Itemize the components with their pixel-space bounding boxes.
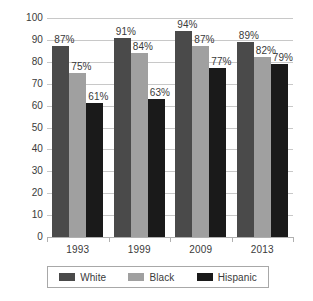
x-axis-tick-start bbox=[47, 237, 48, 242]
bar-black-1993[interactable] bbox=[69, 73, 86, 237]
bar-hispanic-1993[interactable] bbox=[86, 103, 103, 237]
legend-entry-black[interactable]: Black bbox=[128, 272, 174, 283]
y-tick-label-40: 40 bbox=[3, 144, 43, 154]
legend-label-hispanic: Hispanic bbox=[218, 272, 257, 283]
x-axis-tick-2013 bbox=[293, 237, 294, 242]
y-tick-label-80: 80 bbox=[3, 57, 43, 67]
y-tick-label-0: 0 bbox=[3, 232, 43, 242]
x-axis-tick-1993 bbox=[109, 237, 110, 242]
bar-value-label-black-1999: 84% bbox=[133, 42, 153, 52]
x-axis-tick-2009 bbox=[232, 237, 233, 242]
legend-label-black: Black bbox=[149, 272, 174, 283]
x-tick-label-2009: 2009 bbox=[170, 244, 232, 255]
bar-group-1993: 87%75%61% bbox=[52, 18, 103, 237]
y-tick-label-30: 30 bbox=[3, 166, 43, 176]
y-tick-label-60: 60 bbox=[3, 101, 43, 111]
bar-group-1999: 91%84%63% bbox=[114, 18, 165, 237]
bar-value-label-hispanic-1999: 63% bbox=[150, 88, 170, 98]
bar-white-1999[interactable] bbox=[114, 38, 131, 237]
legend-entry-hispanic[interactable]: Hispanic bbox=[197, 272, 257, 283]
bar-black-2013[interactable] bbox=[254, 57, 271, 237]
plot-area: 87%75%61%91%84%63%94%87%77%89%82%79% bbox=[47, 18, 293, 237]
y-tick-label-20: 20 bbox=[3, 188, 43, 198]
y-tick-label-70: 70 bbox=[3, 79, 43, 89]
bar-hispanic-2009[interactable] bbox=[209, 68, 226, 237]
bar-value-label-white-1999: 91% bbox=[116, 27, 136, 37]
bar-value-label-hispanic-2009: 77% bbox=[211, 57, 231, 67]
bar-white-2013[interactable] bbox=[237, 42, 254, 237]
x-axis-tick-1999 bbox=[170, 237, 171, 242]
bar-value-label-black-1993: 75% bbox=[71, 62, 91, 72]
legend-label-white: White bbox=[80, 272, 106, 283]
bar-hispanic-1999[interactable] bbox=[148, 99, 165, 237]
bar-value-label-white-1993: 87% bbox=[54, 35, 74, 45]
y-tick-label-10: 10 bbox=[3, 210, 43, 220]
bar-white-2009[interactable] bbox=[175, 31, 192, 237]
legend-swatch-white bbox=[59, 273, 75, 281]
legend-entry-white[interactable]: White bbox=[59, 272, 106, 283]
bar-value-label-black-2009: 87% bbox=[194, 35, 214, 45]
x-tick-label-1999: 1999 bbox=[108, 244, 170, 255]
x-tick-label-1993: 1993 bbox=[47, 244, 109, 255]
bar-black-1999[interactable] bbox=[131, 53, 148, 237]
bar-value-label-hispanic-1993: 61% bbox=[88, 92, 108, 102]
chart-legend: White Black Hispanic bbox=[47, 266, 269, 288]
bar-hispanic-2013[interactable] bbox=[271, 64, 288, 237]
y-tick-label-50: 50 bbox=[3, 123, 43, 133]
bar-black-2009[interactable] bbox=[192, 46, 209, 237]
grouped-bar-chart: 0102030405060708090100 87%75%61%91%84%63… bbox=[0, 0, 313, 301]
bar-group-2009: 94%87%77% bbox=[175, 18, 226, 237]
bar-white-1993[interactable] bbox=[52, 46, 69, 237]
y-tick-label-100: 100 bbox=[3, 13, 43, 23]
y-tick-label-90: 90 bbox=[3, 35, 43, 45]
legend-swatch-black bbox=[128, 273, 144, 281]
legend-swatch-hispanic bbox=[197, 273, 213, 281]
bar-value-label-hispanic-2013: 79% bbox=[273, 53, 293, 63]
y-axis: 0102030405060708090100 bbox=[0, 0, 43, 301]
bar-group-2013: 89%82%79% bbox=[237, 18, 288, 237]
x-tick-label-2013: 2013 bbox=[231, 244, 293, 255]
bar-value-label-white-2009: 94% bbox=[177, 20, 197, 30]
bar-value-label-white-2013: 89% bbox=[239, 31, 259, 41]
